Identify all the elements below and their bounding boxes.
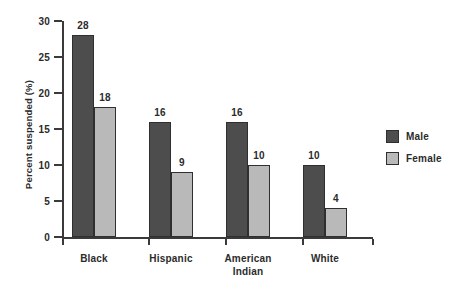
male-swatch: [386, 130, 399, 143]
y-axis-tick: [54, 164, 62, 166]
y-axis-tick-label: 30: [0, 16, 50, 27]
bar-male-black: [72, 35, 94, 237]
y-axis-tick-label: 0: [0, 232, 50, 243]
legend-label: Female: [406, 153, 442, 164]
bar-female-white: [325, 208, 347, 237]
bar-value-label: 9: [165, 157, 199, 168]
bar-value-label: 4: [319, 193, 353, 204]
legend-item-male: Male: [386, 130, 442, 143]
category-label-line: Indian: [203, 265, 293, 278]
y-axis-tick: [54, 56, 62, 58]
x-axis-tick: [148, 239, 150, 245]
bar-female-black: [94, 107, 116, 237]
bar-value-label: 28: [66, 20, 100, 31]
y-axis-tick: [54, 20, 62, 22]
x-axis-tick: [372, 239, 374, 245]
y-axis-tick: [54, 200, 62, 202]
bar-value-label: 18: [88, 92, 122, 103]
y-axis-tick: [54, 92, 62, 94]
bar-value-label: 10: [297, 150, 331, 161]
legend-label: Male: [406, 131, 429, 142]
bar-male-hispanic: [149, 122, 171, 237]
bar-value-label: 16: [220, 107, 254, 118]
bar-chart-figure: Percent suspended (%) 051015202530 28181…: [0, 0, 464, 292]
bar-value-label: 10: [242, 150, 276, 161]
y-axis-line: [62, 21, 64, 238]
y-axis-tick-label: 10: [0, 160, 50, 171]
category-label-white: White: [280, 252, 370, 265]
y-axis-tick: [54, 128, 62, 130]
bar-female-american-indian: [248, 165, 270, 237]
bar-female-hispanic: [171, 172, 193, 237]
y-axis-tick-label: 25: [0, 52, 50, 63]
x-axis-line: [62, 237, 373, 239]
bar-male-american-indian: [226, 122, 248, 237]
x-axis-tick: [225, 239, 227, 245]
x-axis-tick: [302, 239, 304, 245]
female-swatch: [386, 152, 399, 165]
y-axis-tick-label: 5: [0, 196, 50, 207]
y-axis-tick-label: 15: [0, 124, 50, 135]
category-label-line: White: [280, 252, 370, 265]
chart-legend: MaleFemale: [386, 130, 442, 174]
y-axis-tick: [54, 236, 62, 238]
legend-item-female: Female: [386, 152, 442, 165]
y-axis-tick-label: 20: [0, 88, 50, 99]
bar-value-label: 16: [143, 107, 177, 118]
x-axis-tick: [62, 239, 64, 245]
